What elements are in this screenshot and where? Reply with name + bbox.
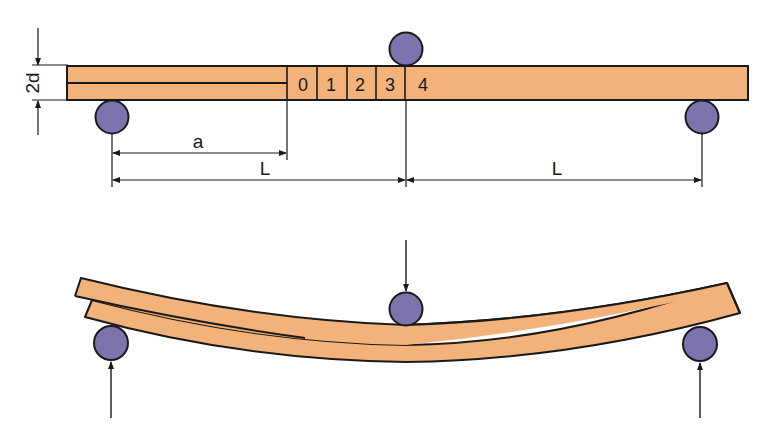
support-roller-right: [686, 101, 719, 134]
support-roller-left: [96, 101, 129, 134]
crack-length-label: a: [193, 131, 204, 152]
span-left-label: L: [260, 158, 271, 179]
span-right-dimension: L: [407, 158, 701, 180]
thickness-label: 2d: [22, 72, 43, 93]
support-roller-left-deformed: [94, 326, 128, 360]
support-roller-right-deformed: [683, 327, 717, 361]
grid-cell-0: 0: [298, 75, 308, 95]
thickness-dimension: 2d: [22, 28, 68, 135]
crack-length-dimension: a: [113, 131, 286, 153]
grid-cell-4: 4: [418, 75, 428, 95]
grid-cell-3: 3: [385, 75, 395, 95]
diagram-canvas: 2d 0 1 2 3 4 a: [0, 0, 769, 436]
loading-roller-top: [390, 33, 423, 66]
top-view: 2d 0 1 2 3 4 a: [22, 28, 748, 187]
bottom-view: [75, 240, 740, 418]
grid-cell-1: 1: [326, 75, 336, 95]
grid-cell-2: 2: [355, 75, 365, 95]
span-right-label: L: [552, 158, 563, 179]
loading-roller-center: [390, 293, 423, 326]
span-left-dimension: L: [113, 158, 405, 180]
